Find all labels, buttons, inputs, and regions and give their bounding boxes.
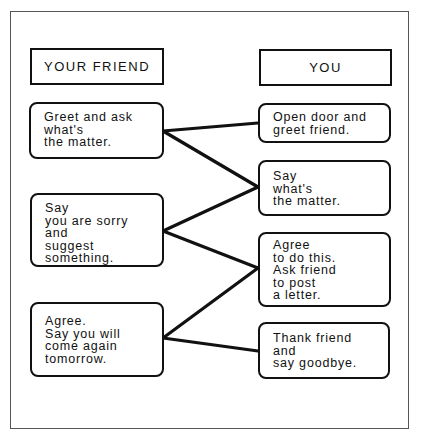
header-your-friend: YOUR FRIEND — [30, 48, 164, 85]
header-you-label: YOU — [309, 60, 342, 75]
header-you: YOU — [259, 49, 392, 86]
header-your-friend-label: YOUR FRIEND — [44, 59, 150, 74]
you-step-3: Agree to do this. Ask friend to post a l… — [258, 232, 391, 307]
friend-step-3: Agree. Say you will come again tomorrow. — [30, 302, 164, 377]
you-step-2: Say what's the matter. — [258, 160, 391, 216]
friend-step-1: Greet and ask what's the matter. — [29, 102, 164, 159]
friend-step-2: Say you are sorry and suggest something. — [30, 193, 164, 267]
you-step-4: Thank friend and say goodbye. — [258, 322, 390, 379]
you-step-1: Open door and greet friend. — [258, 103, 391, 143]
